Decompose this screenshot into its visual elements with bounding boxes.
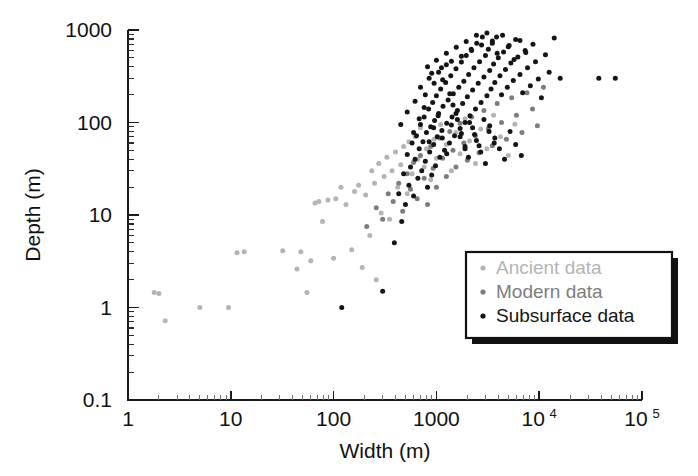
data-point: [497, 146, 502, 151]
data-point: [465, 94, 470, 99]
data-point: [477, 59, 482, 64]
data-point: [415, 176, 420, 181]
y-tick-label: 100: [77, 111, 112, 134]
data-point: [466, 72, 471, 77]
data-point: [463, 146, 468, 151]
data-point: [543, 52, 548, 57]
data-point: [474, 41, 479, 46]
data-point: [486, 47, 491, 52]
data-point: [492, 135, 497, 140]
data-point: [484, 30, 489, 35]
data-point: [413, 157, 418, 162]
y-tick-label: 1: [100, 296, 112, 319]
data-point: [444, 174, 449, 179]
data-point: [376, 161, 381, 166]
data-point: [372, 181, 377, 186]
data-point: [513, 37, 518, 42]
data-point: [444, 151, 449, 156]
data-point: [471, 65, 476, 70]
data-point: [461, 79, 466, 84]
legend-marker: [480, 265, 485, 270]
data-point: [505, 85, 510, 90]
legend: Ancient dataModern dataSubsurface data: [466, 252, 678, 344]
data-point: [499, 92, 504, 97]
data-point: [467, 139, 472, 144]
data-point: [344, 202, 349, 207]
data-point: [517, 38, 522, 43]
data-point: [502, 157, 507, 162]
data-point: [197, 305, 202, 310]
data-point: [473, 161, 478, 166]
data-point: [436, 70, 441, 75]
data-point: [425, 202, 430, 207]
data-point: [339, 305, 344, 310]
data-point: [439, 65, 444, 70]
axis-labels-layer: 10001001010.11101001000104105Width (m)De…: [21, 18, 660, 462]
data-point: [435, 134, 440, 139]
x-tick-label: 100: [316, 407, 351, 430]
data-point: [483, 53, 488, 58]
data-point: [519, 153, 524, 158]
x-axis-title: Width (m): [340, 439, 431, 462]
x-tick-label: 10: [219, 407, 242, 430]
data-point: [511, 78, 516, 83]
data-point: [364, 224, 369, 229]
data-point: [294, 267, 299, 272]
data-point: [396, 191, 401, 196]
data-point: [432, 81, 437, 86]
data-point: [470, 125, 475, 130]
data-point: [469, 48, 474, 53]
data-point: [436, 113, 441, 118]
data-point: [417, 146, 422, 151]
data-point: [474, 33, 479, 38]
data-point: [470, 87, 475, 92]
data-point: [398, 122, 403, 127]
data-point: [431, 125, 436, 130]
data-point: [427, 76, 432, 81]
data-point: [480, 35, 485, 40]
data-point: [405, 152, 410, 157]
axes-layer: [128, 30, 642, 400]
data-point: [398, 162, 403, 167]
data-point: [440, 77, 445, 82]
data-point: [514, 113, 519, 118]
data-point: [520, 90, 525, 95]
data-point: [349, 247, 354, 252]
data-point: [481, 108, 486, 113]
data-point: [427, 139, 432, 144]
data-point: [519, 130, 524, 135]
data-point: [439, 128, 444, 133]
data-point: [308, 258, 313, 263]
data-point: [392, 240, 397, 245]
data-point: [613, 76, 618, 81]
data-point: [298, 249, 303, 254]
data-point: [387, 217, 392, 222]
data-point: [552, 35, 557, 40]
data-point: [479, 100, 484, 105]
data-point: [449, 168, 454, 173]
data-point: [401, 171, 406, 176]
data-point: [417, 116, 422, 121]
data-point: [434, 185, 439, 190]
x-tick-label: 10: [522, 407, 545, 430]
data-point: [458, 126, 463, 131]
data-point: [487, 129, 492, 134]
data-point: [425, 64, 430, 69]
data-point: [479, 42, 484, 47]
data-point: [399, 219, 404, 224]
data-point: [458, 134, 463, 139]
data-point: [156, 291, 161, 296]
data-point: [498, 134, 503, 139]
data-point: [458, 151, 463, 156]
data-point: [391, 199, 396, 204]
data-point: [596, 76, 601, 81]
data-point: [379, 211, 384, 216]
data-point: [380, 289, 385, 294]
data-point: [338, 185, 343, 190]
data-point: [316, 199, 321, 204]
x-tick-label-exponent: 5: [652, 406, 659, 421]
data-point: [411, 130, 416, 135]
data-point: [450, 114, 455, 119]
data-point: [533, 59, 538, 64]
legend-marker: [480, 313, 485, 318]
